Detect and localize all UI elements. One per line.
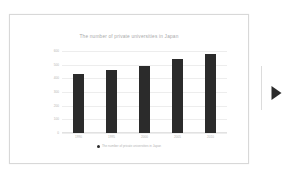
bar[interactable] [139,66,150,133]
x-axis-tick-label: 2000 [128,135,161,139]
y-axis-tick-label: 300 [54,90,59,94]
presentation-slide[interactable]: The number of private universities in Ja… [9,14,249,164]
bar-series [62,51,227,133]
legend-marker-icon [97,145,100,148]
bar-slot [128,51,161,133]
bar[interactable] [73,74,84,133]
bar-slot [95,51,128,133]
bar-slot [161,51,194,133]
bar[interactable] [172,59,183,133]
y-axis-tick-label: 100 [54,117,59,121]
x-axis-tick-label: 1995 [95,135,128,139]
chart-legend: The number of private universities in Ja… [10,144,248,148]
bar-slot [194,51,227,133]
x-axis-tick-label: 2005 [161,135,194,139]
legend-label: The number of private universities in Ja… [102,144,161,148]
plot-area: 0100200300400500600 [62,51,227,133]
y-axis-tick-label: 200 [54,104,59,108]
next-slide-button[interactable] [268,83,284,103]
y-axis-tick-label: 0 [57,131,59,135]
bar-slot [62,51,95,133]
nav-divider [261,66,262,110]
x-axis-tick-label: 2010 [194,135,227,139]
slide-viewer: The number of private universities in Ja… [0,0,298,180]
y-axis-tick-label: 600 [54,49,59,53]
bar-chart: The number of private universities in Ja… [10,15,248,163]
y-axis-tick-label: 500 [54,63,59,67]
x-axis-tick-labels: 19901995200020052010 [62,135,227,139]
x-axis-tick-label: 1990 [62,135,95,139]
play-triangle-icon [270,85,283,101]
bar[interactable] [106,70,117,133]
chart-title: The number of private universities in Ja… [0,34,257,39]
gridline [62,133,227,134]
bar[interactable] [205,54,216,133]
y-axis-tick-label: 400 [54,76,59,80]
